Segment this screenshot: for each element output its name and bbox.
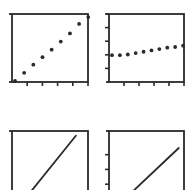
data-line: [25, 136, 76, 190]
data-point: [150, 49, 154, 53]
data-point: [181, 44, 185, 48]
data-point: [59, 40, 63, 44]
data-point: [77, 22, 81, 26]
data-point: [142, 50, 146, 54]
data-point: [134, 51, 138, 55]
data-point: [50, 48, 54, 52]
plot-frame: [109, 131, 184, 190]
data-point: [157, 47, 161, 51]
plot-frame: [109, 14, 184, 82]
data-point: [13, 79, 17, 83]
chart-grid: [0, 0, 195, 190]
data-point: [68, 32, 72, 36]
chart-panel-top-left: [9, 14, 90, 86]
data-point: [118, 53, 122, 57]
plot-frame: [12, 131, 88, 190]
data-point: [86, 15, 90, 19]
data-point: [110, 53, 114, 57]
data-point: [165, 46, 169, 50]
data-point: [173, 45, 177, 49]
data-line: [125, 148, 179, 190]
chart-panel-bottom-right: [105, 131, 184, 190]
data-point: [41, 55, 45, 59]
data-point: [22, 71, 26, 75]
data-point: [126, 53, 130, 57]
chart-panel-bottom-left: [9, 131, 88, 190]
chart-panel-top-right: [105, 14, 185, 86]
data-point: [31, 63, 35, 67]
